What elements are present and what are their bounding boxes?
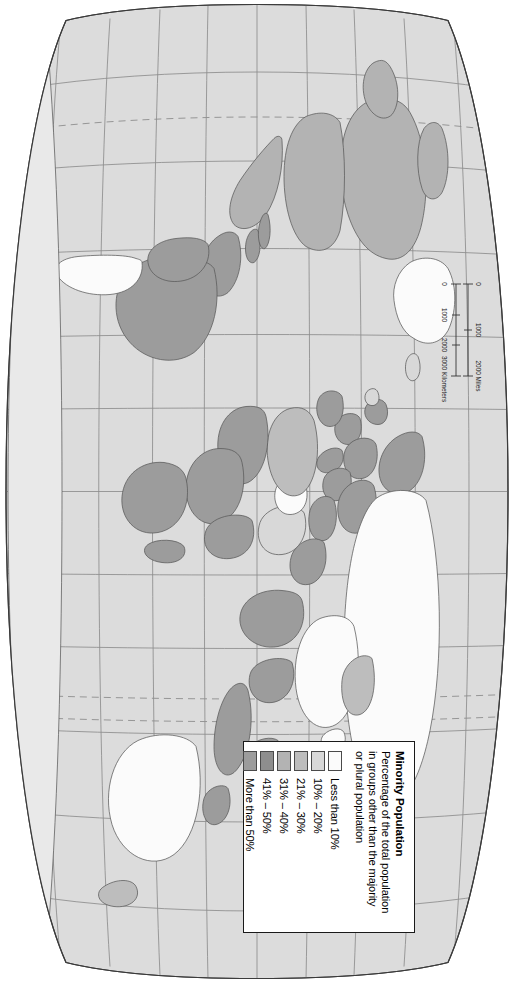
legend-swatch-icon (294, 751, 308, 771)
island-madagascar (144, 540, 184, 563)
map-page: 0 1000 2000 Miles 0 1000 2000 3000 Kilom… (0, 0, 514, 983)
scale-kilometers (451, 284, 461, 376)
legend-item-label: 31% – 40% (278, 778, 290, 833)
legend-item-label: 21% – 30% (295, 778, 307, 833)
scale-miles (463, 284, 473, 376)
map-legend: Minority Population Percentage of the to… (243, 741, 415, 933)
canada-arctic-islands (418, 122, 448, 198)
legend-item: 41% – 50% (259, 751, 274, 923)
legend-subtitle: Percentage of the total population in gr… (353, 751, 392, 923)
region-north-africa (267, 407, 317, 495)
scale-bar: 0 1000 2000 Miles 0 1000 2000 3000 Kilom… (432, 272, 508, 420)
legend-title: Minority Population (393, 751, 406, 923)
legend-item: More than 50% (242, 751, 257, 923)
scale-km-tick-1: 1000 (441, 308, 448, 323)
legend-item-label: More than 50% (244, 778, 256, 851)
continent-antarctica (8, 24, 62, 958)
legend-item: 21% – 30% (293, 751, 308, 923)
legend-item: 31% – 40% (276, 751, 291, 923)
legend-swatch-icon (328, 751, 342, 771)
scale-km-tick-2: 2000 (441, 338, 448, 353)
country-spain-portugal (317, 390, 344, 426)
country-united-states (284, 113, 345, 250)
scale-miles-tick-0: 0 (475, 282, 482, 286)
scale-km-label: 3000 Kilometers (441, 356, 448, 402)
legend-item-label: 10% – 20% (312, 778, 324, 833)
legend-swatch-icon (243, 751, 257, 771)
legend-subtitle-line: in groups other than the majority (366, 751, 379, 923)
legend-item: 10% – 20% (310, 751, 325, 923)
scale-miles-tick-1: 1000 (475, 323, 482, 338)
legend-item: Less than 10% (327, 751, 342, 923)
legend-item-label: Less than 10% (329, 778, 341, 849)
legend-subtitle-line: Percentage of the total population (379, 751, 392, 923)
legend-subtitle-line: or plural population (353, 751, 366, 923)
legend-swatch-icon (277, 751, 291, 771)
legend-item-label: 41% – 50% (261, 778, 273, 833)
legend-swatch-icon (311, 751, 325, 771)
scale-km-tick-0: 0 (441, 282, 448, 286)
scale-miles-label: 2000 Miles (475, 361, 482, 392)
legend-class-list: Less than 10% 10% – 20% 21% – 30% 31% – … (242, 751, 342, 923)
legend-swatch-icon (260, 751, 274, 771)
